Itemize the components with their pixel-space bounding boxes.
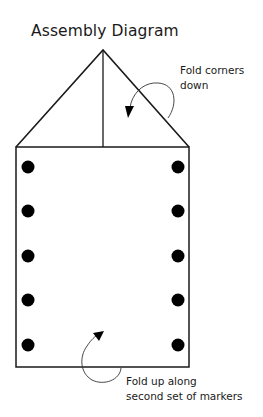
left-markers [22,161,35,352]
marker-dot [22,161,35,174]
marker-dot [172,161,185,174]
marker-dot [172,250,185,263]
marker-dot [172,339,185,352]
marker-dot [22,294,35,307]
fold-down-arrow-icon [125,83,174,118]
marker-dot [172,294,185,307]
marker-dot [22,250,35,263]
triangle-flap [16,50,189,147]
marker-dot [22,339,35,352]
assembly-diagram [0,0,263,417]
marker-dot [22,205,35,218]
right-markers [172,161,185,352]
fold-up-arrow-icon [82,331,121,382]
marker-dot [172,205,185,218]
